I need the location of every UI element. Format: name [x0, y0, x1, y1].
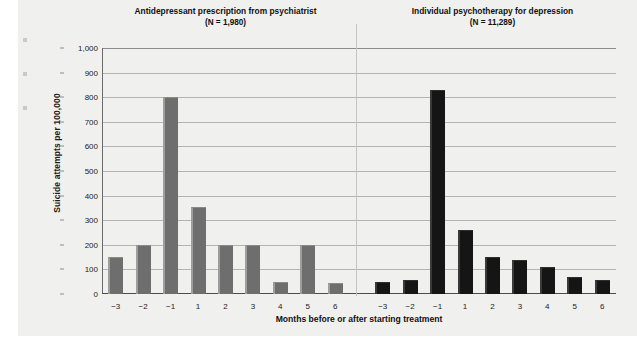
- bar: [245, 245, 260, 294]
- x-tick-label: −1: [157, 302, 184, 311]
- bar: [458, 230, 473, 294]
- edge-mark: [23, 38, 27, 42]
- panel-right-x-ticks: −3−2−1123456: [369, 302, 616, 311]
- x-axis-title: Months before or after starting treatmen…: [102, 314, 616, 324]
- panel-right-bars: [369, 48, 616, 294]
- x-tick-label: 3: [506, 302, 533, 311]
- bar: [540, 267, 555, 294]
- y-tick-label: 0: [64, 290, 98, 299]
- y-tick-mark: [60, 171, 64, 172]
- panel-right-title-text: Individual psychotherapy for depression: [412, 6, 574, 16]
- bar: [328, 283, 343, 294]
- bar-slot: [451, 48, 478, 294]
- y-tick-label: 500: [64, 167, 98, 176]
- panel-antidepressant: Antidepressant prescription from psychia…: [102, 48, 349, 294]
- x-tick-label: 5: [294, 302, 321, 311]
- bar-slot: [102, 48, 129, 294]
- y-tick-mark: [60, 146, 64, 147]
- y-tick-label: 900: [64, 68, 98, 77]
- bar-slot: [424, 48, 451, 294]
- bar: [191, 207, 206, 294]
- page-edge-marks: [18, 28, 34, 120]
- bar: [375, 282, 390, 294]
- bar-slot: [322, 48, 349, 294]
- x-tick-label: 2: [479, 302, 506, 311]
- bar-slot: [589, 48, 616, 294]
- bar: [300, 245, 315, 294]
- y-tick-mark: [60, 269, 64, 270]
- x-tick-label: −2: [396, 302, 423, 311]
- bar: [163, 97, 178, 294]
- bar: [108, 257, 123, 294]
- y-tick-label: 400: [64, 191, 98, 200]
- edge-mark: [23, 106, 27, 110]
- panel-divider: [356, 24, 357, 296]
- x-tick-label: −1: [424, 302, 451, 311]
- y-axis-tick-labels: 01002003004005006007008009001,000: [64, 48, 98, 294]
- panel-left-bars: [102, 48, 349, 294]
- figure-panel: Suicide attempts per 100,000 01002003004…: [18, 0, 637, 336]
- bar-slot: [184, 48, 211, 294]
- y-axis-title: Suicide attempts per 100,000: [52, 48, 62, 258]
- bar-slot: [294, 48, 321, 294]
- panel-right-subtitle: (N = 11,289): [369, 17, 616, 28]
- bar: [403, 280, 418, 294]
- x-tick-label: 5: [561, 302, 588, 311]
- panel-left-x-ticks: −3−2−1123456: [102, 302, 349, 311]
- y-tick-label: 300: [64, 216, 98, 225]
- x-tick-label: 6: [589, 302, 616, 311]
- y-tick-label: 800: [64, 93, 98, 102]
- bar: [512, 260, 527, 294]
- bar-slot: [212, 48, 239, 294]
- x-tick-label: 1: [451, 302, 478, 311]
- bar: [218, 245, 233, 294]
- x-tick-label: 3: [239, 302, 266, 311]
- bar: [136, 245, 151, 294]
- bar-slot: [267, 48, 294, 294]
- bar: [595, 280, 610, 294]
- edge-mark: [23, 72, 27, 76]
- y-tick-mark: [60, 244, 64, 245]
- bar: [567, 277, 582, 294]
- y-tick-label: 700: [64, 117, 98, 126]
- y-tick-mark: [60, 220, 64, 221]
- y-tick-mark: [60, 72, 64, 73]
- panel-left-title: Antidepressant prescription from psychia…: [102, 6, 349, 28]
- x-tick-label: 6: [322, 302, 349, 311]
- x-tick-label: −2: [129, 302, 156, 311]
- y-tick-mark: [60, 195, 64, 196]
- plot-area: 01002003004005006007008009001,000 Antide…: [102, 48, 616, 294]
- x-tick-label: 4: [267, 302, 294, 311]
- bar-slot: [369, 48, 396, 294]
- bar-slot: [479, 48, 506, 294]
- bar-slot: [534, 48, 561, 294]
- y-tick-label: 100: [64, 265, 98, 274]
- panel-psychotherapy: Individual psychotherapy for depression …: [369, 48, 616, 294]
- bar: [485, 257, 500, 294]
- panel-left-title-text: Antidepressant prescription from psychia…: [135, 6, 317, 16]
- y-tick-mark: [60, 48, 64, 49]
- x-tick-label: 1: [184, 302, 211, 311]
- y-tick-mark: [60, 97, 64, 98]
- y-tick-label: 1,000: [64, 44, 98, 53]
- panel-left-subtitle: (N = 1,980): [102, 17, 349, 28]
- x-tick-label: 4: [534, 302, 561, 311]
- x-tick-label: −3: [369, 302, 396, 311]
- bar-slot: [561, 48, 588, 294]
- bar-slot: [506, 48, 533, 294]
- y-tick-mark: [60, 121, 64, 122]
- y-tick-label: 200: [64, 240, 98, 249]
- panel-right-title: Individual psychotherapy for depression …: [369, 6, 616, 28]
- bar-slot: [239, 48, 266, 294]
- bar-slot: [129, 48, 156, 294]
- bar-slot: [157, 48, 184, 294]
- y-tick-label: 600: [64, 142, 98, 151]
- bar: [273, 282, 288, 294]
- x-tick-label: 2: [212, 302, 239, 311]
- bar-slot: [396, 48, 423, 294]
- y-tick-mark: [60, 294, 64, 295]
- x-tick-label: −3: [102, 302, 129, 311]
- bar: [430, 90, 445, 294]
